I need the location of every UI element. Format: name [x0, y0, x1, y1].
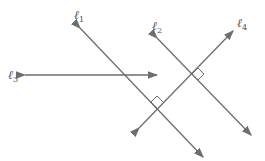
- line-l2: [157, 38, 251, 135]
- label-l4: ℓ4: [237, 16, 247, 32]
- right-angle-mark-l2-l4: [192, 68, 204, 80]
- label-l1: ℓ1: [74, 8, 84, 24]
- geometry-diagram: ℓ1 ℓ2 ℓ3 ℓ4: [0, 0, 265, 161]
- right-angle-mark-l1-l4: [151, 96, 163, 108]
- line-l4: [139, 31, 233, 128]
- label-l2: ℓ2: [152, 19, 162, 35]
- lines-figure: ℓ1 ℓ2 ℓ3 ℓ4: [0, 0, 265, 161]
- label-l3: ℓ3: [8, 68, 18, 84]
- line-l1: [80, 28, 203, 157]
